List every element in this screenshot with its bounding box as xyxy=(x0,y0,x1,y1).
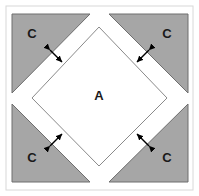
figure-canvas: C C C C A xyxy=(0,0,199,196)
arrow-bottom-right xyxy=(137,134,149,146)
corner-label-top-right: C xyxy=(162,26,172,41)
arrow-top-right xyxy=(137,50,149,62)
center-label-a: A xyxy=(94,88,104,103)
geometry-figure: C C C C A xyxy=(0,0,199,196)
arrow-top-left xyxy=(50,50,62,62)
corner-label-bottom-right: C xyxy=(162,150,172,165)
corner-label-bottom-left: C xyxy=(27,150,37,165)
corner-label-top-left: C xyxy=(27,26,37,41)
arrow-bottom-left xyxy=(50,134,62,146)
